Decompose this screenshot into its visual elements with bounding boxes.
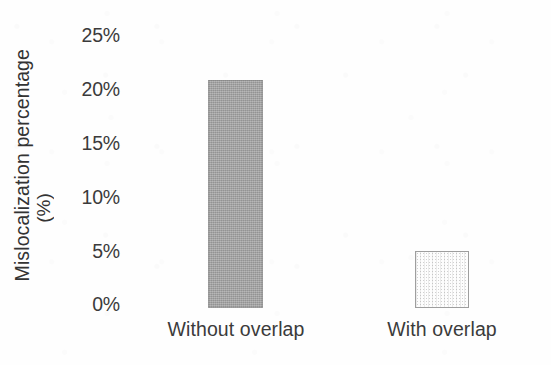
y-tick-label-5: 25%	[82, 24, 120, 47]
y-tick-label-4: 20%	[82, 78, 120, 101]
x-tick-label-without-overlap: Without overlap	[168, 318, 305, 341]
y-axis-title: Mislocalization percentage (%)	[2, 0, 64, 330]
y-tick-label-1: 5%	[92, 240, 120, 263]
x-tick-label-with-overlap: With overlap	[387, 318, 497, 341]
bar-with-overlap	[415, 251, 469, 308]
bar-chart-figure: Mislocalization percentage (%) 0% 5% 10%…	[0, 0, 551, 365]
y-axis-title-line-1: Mislocalization percentage	[13, 49, 33, 281]
y-axis-tick-labels: 0% 5% 10% 15% 20% 25%	[58, 0, 120, 365]
y-tick-label-0: 0%	[92, 293, 120, 316]
y-tick-label-2: 10%	[82, 186, 120, 209]
plot-area	[124, 0, 534, 365]
x-axis-tick-labels: Without overlap With overlap	[124, 318, 534, 352]
bar-without-overlap	[208, 80, 263, 309]
y-tick-label-3: 15%	[82, 132, 120, 155]
y-axis-title-line-2: (%)	[34, 193, 53, 223]
